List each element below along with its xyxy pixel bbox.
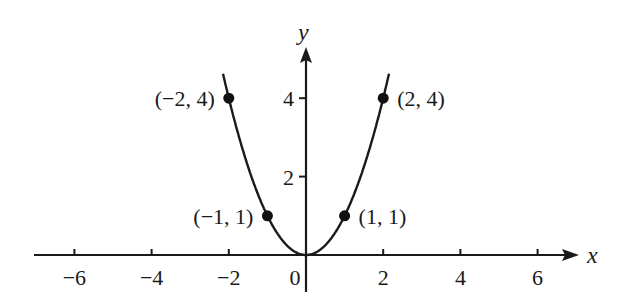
x-axis-label: x bbox=[586, 242, 598, 268]
data-point-label: (2, 4) bbox=[397, 86, 445, 111]
parabola-chart: xy−6−4−2024624 (−2, 4)(−1, 1)(1, 1)(2, 4… bbox=[0, 0, 624, 308]
data-points: (−2, 4)(−1, 1)(1, 1)(2, 4) bbox=[155, 86, 445, 229]
data-point-label: (1, 1) bbox=[359, 204, 407, 229]
data-point-marker bbox=[339, 210, 350, 221]
data-point-marker bbox=[262, 210, 273, 221]
x-tick-label: 0 bbox=[290, 265, 301, 290]
x-tick-label: 4 bbox=[455, 265, 466, 290]
x-tick-label: 6 bbox=[532, 265, 543, 290]
data-point-label: (−2, 4) bbox=[155, 86, 215, 111]
x-tick-label: −4 bbox=[140, 265, 163, 290]
y-tick-label: 2 bbox=[283, 165, 294, 190]
data-point-label: (−1, 1) bbox=[193, 204, 253, 229]
data-point-marker bbox=[223, 93, 234, 104]
x-tick-label: 2 bbox=[378, 265, 389, 290]
x-tick-label: −2 bbox=[217, 265, 240, 290]
y-axis-label: y bbox=[296, 19, 309, 45]
x-tick-label: −6 bbox=[63, 265, 86, 290]
data-point-marker bbox=[378, 93, 389, 104]
y-tick-label: 4 bbox=[283, 86, 294, 111]
